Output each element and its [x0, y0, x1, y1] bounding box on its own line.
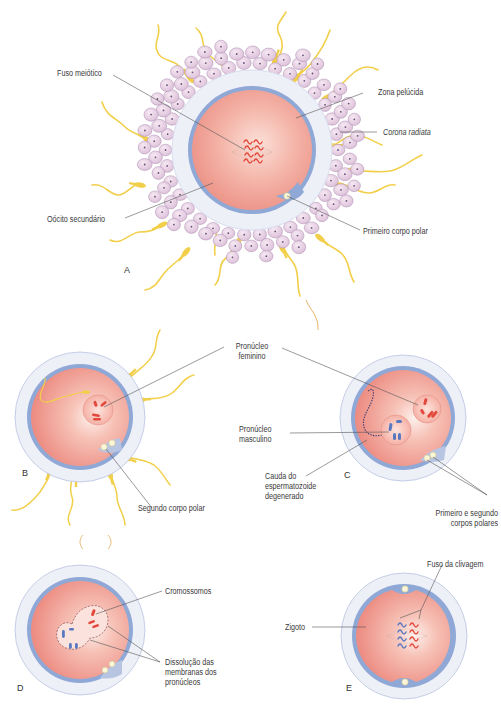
panel-a	[92, 12, 422, 296]
label-primeiro-corpo-polar: Primeiro corpo polar	[363, 226, 428, 236]
panel-letter-d: D	[17, 683, 24, 693]
polar-body	[402, 679, 408, 685]
label-corpos-polares-line1: Primeiro e segundo	[431, 508, 498, 518]
label-pronucleo-masculino-line2: masculino	[239, 434, 271, 444]
label-cauda-line3: degenerado	[265, 491, 303, 501]
label-fuso-clivagem: Fuso da clivagem	[427, 559, 483, 569]
label-pronucleo-feminino-line2: feminino	[229, 351, 275, 361]
panel-letter-e: E	[346, 683, 352, 693]
cropped-caption-strip	[0, 703, 330, 710]
polar-body	[102, 667, 108, 673]
label-zona-pelucida: Zona pelúcida	[378, 87, 423, 97]
label-zigoto: Zigoto	[285, 622, 305, 632]
label-corpos-polares-line2: corpos polares	[431, 518, 498, 528]
zygote-cytoplasm	[356, 590, 450, 682]
label-oocito-secundario: Oócito secundário	[47, 214, 105, 224]
male-pronucleus	[381, 415, 411, 445]
label-dissolucao-line2: membranas dos	[165, 667, 217, 677]
label-segundo-corpo-polar: Segundo corpo polar	[138, 503, 205, 513]
label-corona-radiata: Corona radiata	[383, 127, 431, 137]
label-cauda-line2: espermatozoide	[265, 481, 316, 491]
label-pronucleo-feminino-line1: Pronúcleo	[229, 341, 275, 351]
panel-b	[12, 330, 224, 525]
panel-letter-b: B	[22, 468, 28, 478]
panel-e	[312, 565, 467, 699]
label-cauda-line1: Cauda do	[265, 471, 296, 481]
panel-letter-c: C	[344, 470, 351, 480]
polar-body	[109, 440, 115, 446]
label-dissolucao-line3: pronúcleos	[165, 677, 200, 687]
label-dissolucao-line1: Dissolução das	[165, 657, 214, 667]
label-pronucleo-masculino-line1: Pronúcleo	[239, 424, 271, 434]
label-cromossomos: Cromossomos	[165, 586, 211, 596]
polar-body	[402, 586, 408, 592]
label-fuso-meiotico: Fuso meiótico	[57, 68, 102, 78]
panel-d	[15, 535, 162, 695]
panel-letter-a: A	[124, 265, 130, 275]
panel-c	[282, 300, 487, 495]
polar-body	[109, 661, 115, 667]
